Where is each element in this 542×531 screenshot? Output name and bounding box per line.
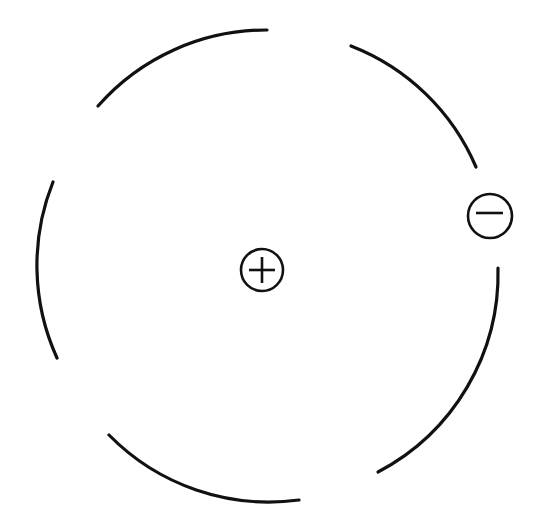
electron-ring	[468, 194, 512, 238]
orbit-arc-top-right	[351, 46, 476, 167]
nucleus: +	[241, 249, 283, 291]
atom-diagram: + −	[0, 0, 542, 531]
electron: −	[468, 194, 512, 238]
orbit-arc-top-left	[98, 30, 267, 106]
orbit-arc-right	[378, 268, 498, 472]
orbit-arc-left	[37, 182, 57, 358]
orbit-arc-bottom	[109, 435, 299, 502]
